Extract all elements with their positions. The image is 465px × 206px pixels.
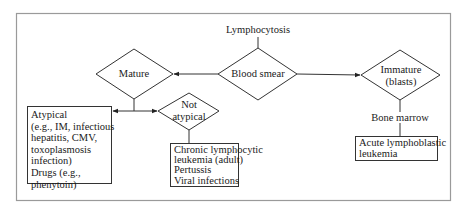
atypical-line: Atypical bbox=[31, 109, 108, 121]
mature-label: Mature bbox=[119, 68, 149, 80]
lymphocytosis-label: Lymphocytosis bbox=[226, 24, 290, 36]
atypical-line: phenytoin) bbox=[31, 179, 108, 191]
bone-marrow-label: Bone marrow bbox=[371, 112, 428, 124]
immature-label-line1: Immature bbox=[381, 64, 422, 76]
atypical-line: hepatitis, CMV, bbox=[31, 132, 108, 144]
not-atypical-label-line1: Not bbox=[181, 99, 197, 111]
acute-lymphoblastic-leukemia-box: Acute lymphoblastic leukemia bbox=[355, 136, 438, 161]
atypical-line: toxoplasmosis bbox=[31, 144, 108, 156]
atypical-line: (e.g., IM, infectious bbox=[31, 121, 108, 133]
immature-label-line2: (blasts) bbox=[386, 76, 417, 88]
blood-smear-label: Blood smear bbox=[231, 68, 284, 80]
cause-line: Viral infections bbox=[174, 176, 235, 186]
not-atypical-causes-box: Chronic lymphocytic leukemia (adult) Per… bbox=[170, 143, 239, 187]
edge-blood-smear-immature bbox=[297, 74, 360, 75]
atypical-line: Drugs (e.g., bbox=[31, 167, 108, 179]
not-atypical-label-line2: atypical bbox=[172, 111, 205, 123]
all-line: leukemia bbox=[359, 149, 434, 160]
all-line: Acute lymphoblastic bbox=[359, 138, 434, 149]
atypical-box: Atypical (e.g., IM, infectious hepatitis… bbox=[27, 106, 112, 184]
atypical-line: infection) bbox=[31, 155, 108, 167]
